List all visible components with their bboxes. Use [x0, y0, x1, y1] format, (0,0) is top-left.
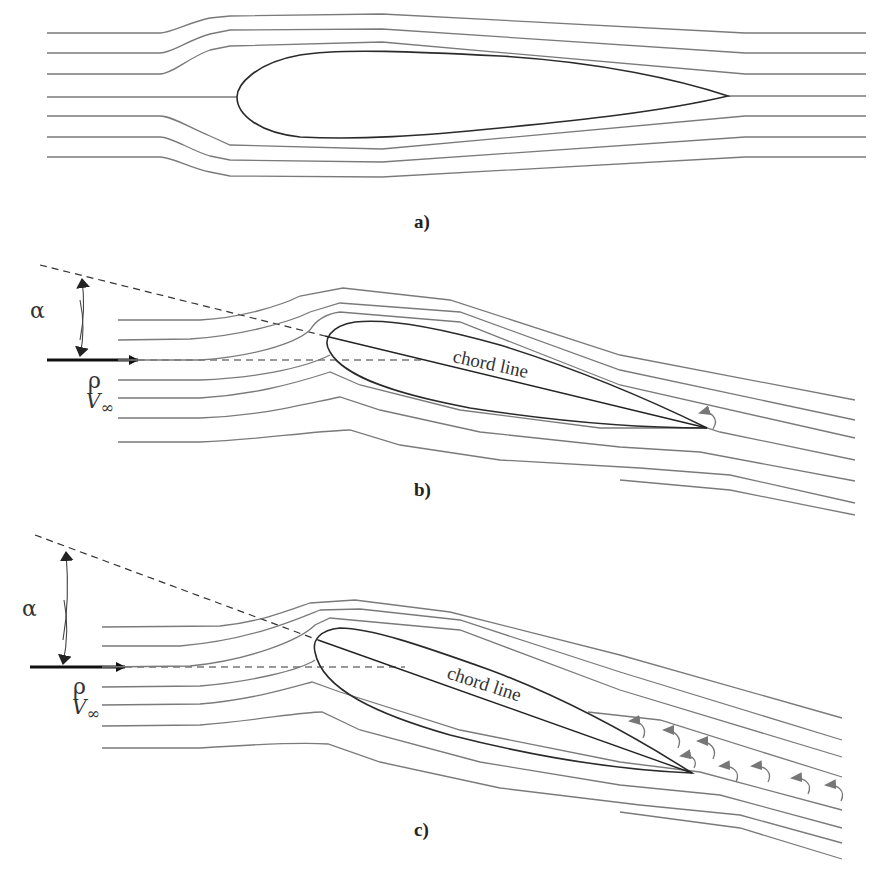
vortex-icon — [792, 778, 810, 794]
alpha-symbol-c: α — [22, 596, 37, 621]
panel-c: α ρ V∞ chord line c) — [22, 535, 843, 859]
panel-c-streamlines — [102, 600, 842, 859]
vortex-icon — [664, 730, 680, 748]
vortex-icon — [826, 785, 843, 801]
vortex-icon — [681, 756, 695, 768]
vortex-icon — [752, 766, 770, 782]
panel-b: α ρ V∞ chord line b) — [30, 265, 855, 515]
velocity-symbol-b: V∞ — [86, 389, 114, 417]
panel-b-label: b) — [414, 479, 431, 501]
vortex-icon — [630, 721, 645, 738]
panel-a: a) — [47, 14, 866, 233]
panel-a-label: a) — [414, 211, 430, 233]
panel-c-label: c) — [414, 819, 429, 841]
vortex-icon — [698, 741, 715, 759]
alpha-symbol-b: α — [30, 298, 45, 323]
chord-extension-c — [35, 535, 318, 640]
panel-b-streamlines — [118, 288, 855, 515]
velocity-symbol-c: V∞ — [72, 695, 100, 723]
airfoil-flow-diagram: a) α ρ V∞ chord line b) — [0, 0, 886, 885]
airfoil-a — [237, 51, 728, 138]
panel-a-streamlines — [47, 14, 866, 177]
